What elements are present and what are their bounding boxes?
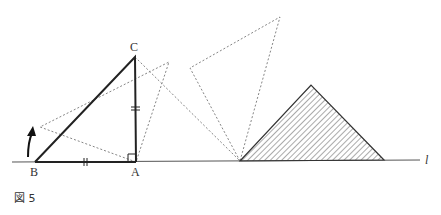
label-c: C [130, 41, 138, 53]
figure-canvas [0, 0, 441, 215]
rotated-triangle-1 [40, 62, 169, 162]
dotted-line-c-pivot [135, 57, 240, 161]
figure-caption: 図 5 [14, 189, 36, 205]
label-b: B [30, 166, 38, 178]
label-line-l: l [425, 154, 428, 166]
label-a: A [131, 166, 140, 178]
triangle-abc [35, 57, 136, 162]
arrow-head-icon [27, 126, 36, 136]
hatched-triangle [240, 85, 384, 161]
rotation-arrow-icon [28, 133, 32, 157]
